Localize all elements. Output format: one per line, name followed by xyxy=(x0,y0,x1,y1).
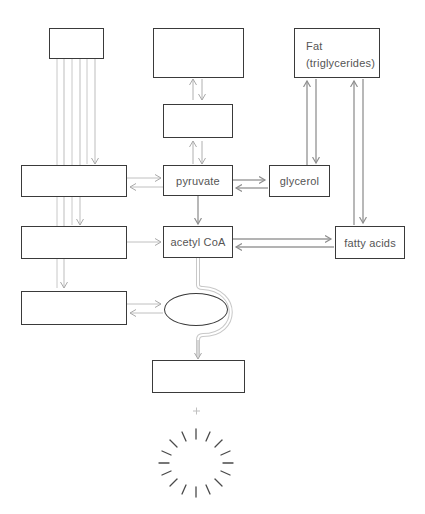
node-pyruvate: pyruvate xyxy=(163,165,233,196)
energy-burst-icon xyxy=(159,429,233,497)
node-acetyl-coa: acetyl CoA xyxy=(163,226,233,258)
node-left-blank-2 xyxy=(21,226,127,259)
node-fat: Fat (triglycerides) xyxy=(294,28,380,78)
fattyacids-fat-arrows xyxy=(354,79,363,225)
node-left-blank-3 xyxy=(21,291,127,325)
node-glycerol: glycerol xyxy=(269,165,330,197)
fat-sublabel: (triglycerides) xyxy=(306,55,375,72)
fat-label: Fat xyxy=(306,38,375,55)
node-fatty-acids: fatty acids xyxy=(335,226,405,259)
node-bottom-blank xyxy=(152,360,245,393)
pyruvate-glycerol-arrows xyxy=(233,180,268,188)
left3-ellipse-arrows xyxy=(127,304,163,313)
node-top-left-blank xyxy=(49,28,104,59)
glycerol-fat-arrows xyxy=(307,79,316,165)
left1-pyruvate-arrows xyxy=(127,178,163,187)
node-top-center-blank xyxy=(153,28,244,78)
plus-icon xyxy=(193,408,200,415)
acetylcoa-fattyacids-arrows xyxy=(233,239,334,247)
node-mid-center-blank xyxy=(163,104,233,138)
node-cycle-ellipse xyxy=(164,293,228,326)
node-left-blank-1 xyxy=(21,165,127,197)
